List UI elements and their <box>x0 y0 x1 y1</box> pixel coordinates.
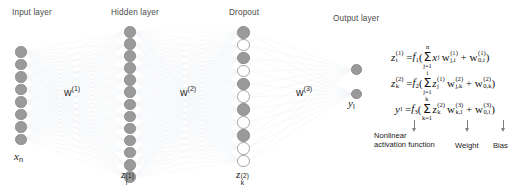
eq-equals: = <box>403 77 412 89</box>
node <box>124 38 136 50</box>
eq-equals: = <box>403 51 412 63</box>
node <box>237 78 250 91</box>
node <box>15 96 27 108</box>
node <box>15 46 27 58</box>
node <box>237 26 250 39</box>
sub: 0,i <box>478 57 485 64</box>
node-dropped <box>237 155 250 168</box>
eq-equals: = <box>402 103 411 115</box>
weight-label-w2-sup: (2) <box>188 85 197 92</box>
node-dropped <box>237 116 250 129</box>
eq-term2: w <box>440 51 450 63</box>
node <box>15 121 27 133</box>
node-column-hidden <box>124 26 136 183</box>
node <box>237 129 250 142</box>
arrow-to-bias <box>503 120 504 129</box>
node-label-hidden-base: z <box>121 168 125 180</box>
node <box>124 74 136 86</box>
node-label-output: yl <box>348 97 355 111</box>
eq-term1: x <box>432 51 437 63</box>
node <box>15 84 27 96</box>
node-dropped <box>237 65 250 78</box>
eq-open-paren: ( <box>419 51 423 63</box>
node <box>124 86 136 98</box>
node-label-dropout-sub: k <box>241 180 244 187</box>
annotation-activation-line2: activation function <box>374 140 435 149</box>
node <box>15 109 27 121</box>
weight-label-w2-base: w <box>180 86 188 98</box>
arrow-to-weight <box>467 120 468 129</box>
eq-close-paren: ) <box>486 51 490 63</box>
node-dropped <box>237 142 250 155</box>
weight-label-w3: w(3) <box>296 85 312 98</box>
eq-open-paren: ( <box>419 77 423 89</box>
node-dropped <box>237 39 250 52</box>
weight-label-w2: w(2) <box>180 85 196 98</box>
annotation-weight: Weight <box>455 141 479 150</box>
node <box>124 62 136 74</box>
sub: k,l <box>456 109 463 116</box>
sub: 0,k <box>483 83 491 90</box>
annotation-bias: Bias <box>493 141 508 150</box>
node <box>237 52 250 65</box>
eq-bias: w <box>470 51 478 63</box>
eq-summation: iΣj=1 <box>423 70 432 96</box>
node-column-dropout <box>237 26 250 168</box>
eq-summation: nΣj=1 <box>423 44 432 70</box>
node <box>237 103 250 116</box>
layer-label-output: Output layer <box>333 14 379 23</box>
node <box>124 147 136 159</box>
eq-summation: kΣk=1 <box>422 96 432 122</box>
node-column-input <box>15 46 27 146</box>
sub: i <box>396 57 398 64</box>
node-label-dropout-base: z <box>236 168 240 180</box>
node <box>124 111 136 123</box>
arrow-to-activation <box>414 120 415 129</box>
node <box>15 59 27 71</box>
sub: 0,l <box>483 109 490 116</box>
annotation-activation: Nonlinear activation function <box>374 131 435 150</box>
eq-open-paren: ( <box>418 103 422 115</box>
node-dropped <box>237 90 250 103</box>
node-label-input: xn <box>14 150 23 164</box>
annotation-activation-line1: Nonlinear <box>374 131 435 140</box>
eq-lhs: y <box>395 103 400 115</box>
weight-label-w1-sup: (1) <box>72 85 81 92</box>
neural-network-diagram: Input layer Hidden layer Dropout Output … <box>0 0 526 196</box>
node <box>124 50 136 62</box>
node-label-dropout: z(2)k <box>236 168 249 186</box>
weight-label-w3-sup: (3) <box>304 85 313 92</box>
node <box>124 135 136 147</box>
eq-term2: w <box>445 77 455 89</box>
eq-close-paren: ) <box>491 103 495 115</box>
node-label-output-sub: l <box>353 102 355 111</box>
node-label-hidden: z(1)i <box>121 168 134 186</box>
eq-close-paren: ) <box>492 77 496 89</box>
node <box>124 123 136 135</box>
weight-label-w1: w(1) <box>64 85 80 98</box>
layer-label-dropout: Dropout <box>229 8 259 17</box>
weight-label-w1-base: w <box>64 86 72 98</box>
weight-label-w3-base: w <box>296 86 304 98</box>
node <box>351 64 362 75</box>
node <box>124 26 136 38</box>
eq-plus: + <box>463 103 475 115</box>
eq-term2: w <box>445 103 455 115</box>
eq-bias: w <box>475 77 483 89</box>
node <box>15 134 27 146</box>
sub: j,i <box>450 57 455 64</box>
eq-term1: z <box>432 103 436 115</box>
sub: k <box>396 83 399 90</box>
node-label-input-sub: n <box>19 155 23 164</box>
eq-plus: + <box>458 51 470 63</box>
equation-dropout-activation: z(2)k =f2(iΣj=1z(1)j w(2)j,k + w(2)0,k) <box>391 70 495 96</box>
eq-lhs: z <box>391 51 395 63</box>
equation-output: yl =f3(kΣk=1z(2)k w(3)k,l + w(3)0,l) <box>395 96 495 122</box>
sub: k <box>437 109 440 116</box>
eq-plus: + <box>463 77 475 89</box>
eq-lhs: z <box>391 77 395 89</box>
sub: j <box>437 83 439 90</box>
node-label-hidden-sub: i <box>126 180 127 187</box>
eq-term1: z <box>432 77 436 89</box>
node <box>124 99 136 111</box>
